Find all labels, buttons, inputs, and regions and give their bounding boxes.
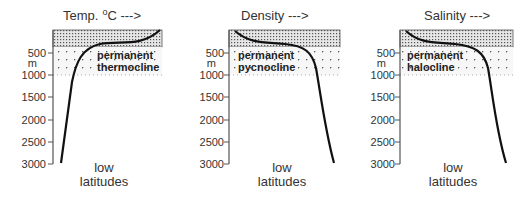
tick-label: 1500 <box>371 91 395 103</box>
footer-label: latitudes <box>429 174 478 189</box>
tick-label: 1500 <box>200 91 224 103</box>
tick-label: 2500 <box>200 136 224 148</box>
unit-label: m <box>28 57 37 69</box>
tick-label: 2000 <box>200 114 224 126</box>
panel-salinity: Salinity ---> permanent halocline 500 m … <box>371 8 513 189</box>
zone-label: pycnocline <box>238 61 295 73</box>
tick-label: 2500 <box>22 136 46 148</box>
depth-ticks <box>224 53 229 164</box>
panel-title-temperature: Temp.oC ---> <box>63 7 141 23</box>
tick-label: 2000 <box>22 114 46 126</box>
tick-label: 2000 <box>371 114 395 126</box>
footer-label: latitudes <box>80 174 129 189</box>
zone-label: permanent <box>238 49 295 61</box>
tick-label: 3000 <box>22 158 46 170</box>
panel-title-density: Density ---> <box>241 8 309 23</box>
tick-label: 3000 <box>371 158 395 170</box>
unit-label: m <box>207 57 216 69</box>
panel-density: Density ---> permanent pycnocline 500 m … <box>200 8 340 189</box>
zone-label: halocline <box>407 61 455 73</box>
ocean-profiles-diagram: Temp.oC ---> permanent thermocline 500 m… <box>0 0 531 199</box>
footer-label: latitudes <box>258 174 307 189</box>
zone-label: permanent <box>97 49 154 61</box>
unit-label: m <box>377 57 386 69</box>
depth-ticks <box>395 53 400 164</box>
zone-label: permanent <box>407 49 464 61</box>
panel-temperature: Temp.oC ---> permanent thermocline 500 m… <box>22 7 162 189</box>
footer-label: low <box>443 160 463 175</box>
panel-title-salinity: Salinity ---> <box>424 8 490 23</box>
footer-label: low <box>94 160 114 175</box>
footer-label: low <box>272 160 292 175</box>
tick-label: 2500 <box>371 136 395 148</box>
tick-label: 3000 <box>200 158 224 170</box>
tick-label: 1000 <box>200 69 224 81</box>
depth-ticks <box>48 53 53 164</box>
tick-label: 1000 <box>371 69 395 81</box>
zone-label: thermocline <box>97 61 159 73</box>
tick-label: 1000 <box>22 69 46 81</box>
tick-label: 1500 <box>22 91 46 103</box>
